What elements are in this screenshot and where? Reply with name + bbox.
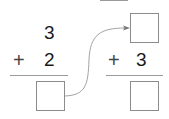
transfer-arrow-icon [0,0,169,119]
